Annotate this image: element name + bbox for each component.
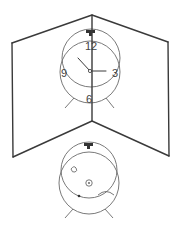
folded-card xyxy=(12,15,169,157)
numeral-6: 6 xyxy=(86,93,92,105)
card-bottom-edge xyxy=(13,121,169,157)
back-bell-ring xyxy=(61,142,117,198)
numeral-9: 9 xyxy=(61,67,67,79)
back-key-icon xyxy=(71,167,77,172)
mirror-clock: 12 3 6 9 xyxy=(60,29,120,108)
numeral-3: 3 xyxy=(112,67,118,79)
back-winding-key-stem xyxy=(87,146,90,149)
numeral-12: 12 xyxy=(85,40,97,52)
back-dot xyxy=(78,195,81,198)
back-leg-right xyxy=(105,209,113,218)
clock-leg-right xyxy=(106,98,114,108)
back-leg-left xyxy=(65,209,73,218)
clock-leg-left xyxy=(65,98,74,108)
diagram-canvas: 12 3 6 9 xyxy=(0,0,180,230)
winding-key-icon xyxy=(86,30,95,33)
back-clock xyxy=(59,142,119,218)
hand-pivot xyxy=(88,69,91,72)
card-left-edge xyxy=(12,43,13,157)
back-winding-key-icon xyxy=(84,143,93,146)
card-right-edge xyxy=(168,42,169,156)
back-knob-center xyxy=(88,182,90,184)
hour-hand xyxy=(78,58,90,71)
figure: 12 3 6 9 xyxy=(0,0,180,230)
